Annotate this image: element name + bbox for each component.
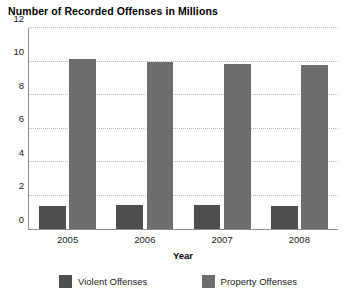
bar-property-2006 xyxy=(147,62,174,229)
y-axis-tick-label: 6 xyxy=(19,114,24,124)
x-axis-tick-label: 2007 xyxy=(212,234,233,245)
y-axis-tick-label: 0 xyxy=(19,215,24,225)
plot-frame: 0246810122005200620072008 xyxy=(28,28,338,230)
bar-group: 2005 xyxy=(29,28,106,229)
y-axis-tick-label: 12 xyxy=(13,14,24,24)
plot-area: 0246810122005200620072008 xyxy=(29,28,338,229)
bar-violent-2007 xyxy=(194,205,221,229)
x-axis-tick-label: 2006 xyxy=(134,234,155,245)
x-axis-tick-label: 2005 xyxy=(57,234,78,245)
legend-label: Violent Offenses xyxy=(78,277,147,287)
bar-group: 2006 xyxy=(106,28,183,229)
bar-group: 2007 xyxy=(184,28,261,229)
legend-label: Property Offenses xyxy=(221,277,297,287)
y-axis-tick-label: 2 xyxy=(19,181,24,191)
legend-item-property-offenses: Property Offenses xyxy=(202,275,297,288)
x-axis-title: Year xyxy=(28,250,338,261)
bar-violent-2008 xyxy=(271,206,298,229)
bar-violent-2006 xyxy=(116,205,143,229)
legend-item-violent-offenses: Violent Offenses xyxy=(59,275,147,288)
bar-property-2008 xyxy=(301,65,328,229)
chart-legend: Violent OffensesProperty Offenses xyxy=(28,275,338,293)
x-axis-tick-label: 2008 xyxy=(289,234,310,245)
legend-swatch xyxy=(202,275,215,288)
bar-violent-2005 xyxy=(39,206,66,229)
chart-title: Number of Recorded Offenses in Millions xyxy=(8,5,218,17)
bar-group: 2008 xyxy=(261,28,338,229)
legend-swatch xyxy=(59,275,72,288)
bar-property-2007 xyxy=(224,64,251,229)
bar-property-2005 xyxy=(69,59,96,229)
y-axis-tick-label: 8 xyxy=(19,81,24,91)
y-axis-tick-label: 4 xyxy=(19,148,24,158)
bar-chart: Number of Recorded Offenses in Millions … xyxy=(0,0,345,301)
y-axis-tick-label: 10 xyxy=(13,47,24,57)
